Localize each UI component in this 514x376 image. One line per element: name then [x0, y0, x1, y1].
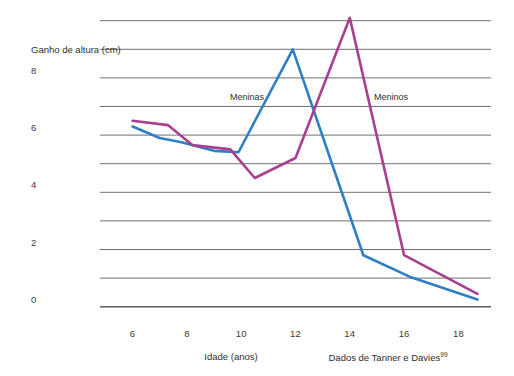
source-note: Dados de Tanner e Davies99	[328, 352, 447, 363]
gridline-group	[100, 21, 491, 307]
x-tick-label: 10	[236, 329, 247, 339]
x-tick-label: 12	[290, 329, 301, 339]
y-tick-label: 4	[31, 180, 36, 190]
series-line-meninos	[133, 18, 478, 294]
x-axis-title: Idade (anos)	[204, 352, 257, 362]
source-note-text: Dados de Tanner e Davies	[328, 352, 440, 363]
y-tick-label: 6	[31, 123, 36, 133]
y-tick-label: 8	[31, 66, 36, 76]
series-line-meninas	[133, 49, 478, 299]
x-tick-label: 16	[399, 329, 410, 339]
x-tick-label: 14	[344, 329, 355, 339]
series-label-meninas: Meninas	[230, 93, 264, 102]
x-tick-label: 8	[184, 329, 189, 339]
x-tick-label: 6	[130, 329, 135, 339]
chart-figure: Ganho de altura (cm) 02468 681012141618 …	[0, 0, 514, 376]
y-tick-label: 2	[31, 238, 36, 248]
series-label-meninos: Meninos	[374, 93, 408, 102]
x-tick-label: 18	[453, 329, 464, 339]
line-chart-plot	[0, 0, 514, 376]
series-group	[133, 18, 478, 300]
source-note-reference: 99	[440, 351, 447, 358]
y-axis-title: Ganho de altura (cm)	[31, 45, 121, 55]
y-tick-label: 0	[31, 295, 36, 305]
